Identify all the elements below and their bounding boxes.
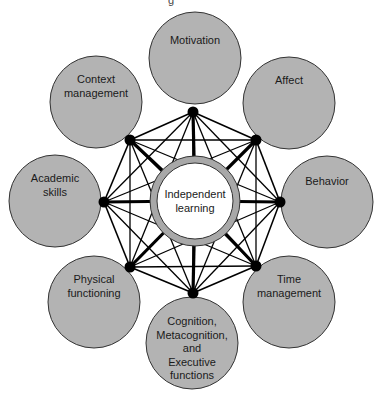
connection-line <box>256 202 280 266</box>
center-node: Independentlearning <box>150 156 240 246</box>
node-academic-skills: Academicskills <box>9 155 110 247</box>
connection-line <box>256 140 280 202</box>
junction-dot <box>251 261 262 272</box>
junction-dot <box>99 197 110 208</box>
node-label: Motivation <box>170 34 220 46</box>
node-motivation: Motivation <box>149 12 241 118</box>
node-circle <box>149 12 241 104</box>
node-label: Physicalfunctioning <box>67 273 120 299</box>
node-circle <box>281 156 373 248</box>
node-circle <box>9 155 101 247</box>
junction-dot <box>188 288 199 299</box>
independent-learning-diagram: MotivationAffectBehaviorTimemanagementCo… <box>0 0 387 401</box>
node-physical-functioning: Physicalfunctioning <box>48 256 140 348</box>
node-affect: Affect <box>243 57 335 149</box>
junction-dot <box>125 135 136 146</box>
junction-dot <box>275 197 286 208</box>
center-inner <box>157 163 233 239</box>
node-circle <box>50 56 142 148</box>
junction-dot <box>125 262 136 273</box>
node-label: Affect <box>275 74 303 86</box>
junction-dot <box>188 107 199 118</box>
node-time-management: Timemanagement <box>243 256 335 348</box>
junction-dot <box>251 135 262 146</box>
node-context-management: Contextmanagement <box>50 56 142 148</box>
node-behavior: Behavior <box>275 156 374 248</box>
node-cognition: Cognition,Metacognition,andExecutivefunc… <box>146 288 238 390</box>
node-label: Behavior <box>305 175 349 187</box>
